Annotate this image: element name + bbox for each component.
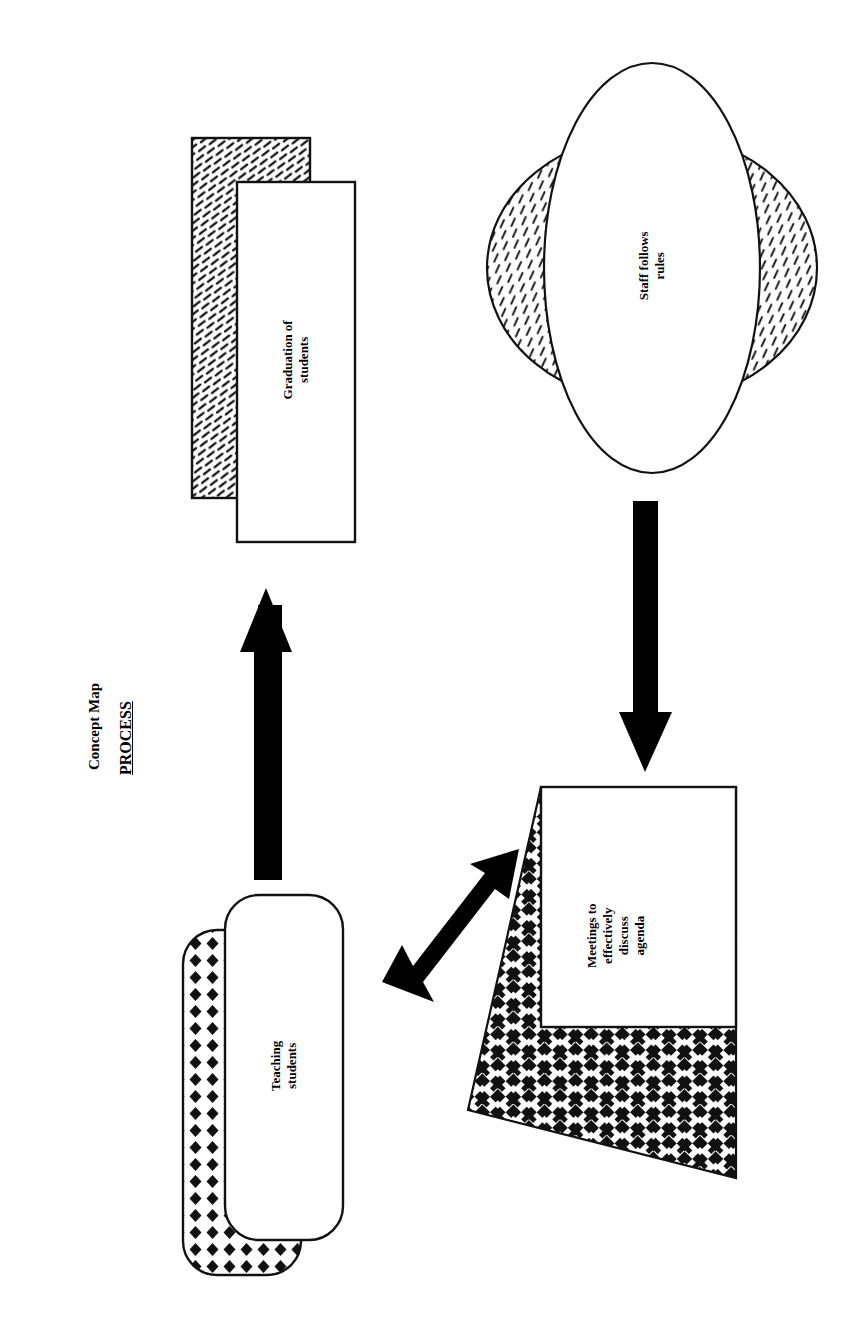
node-label-graduation: Graduation of students	[280, 285, 312, 435]
arrow-up-glyph	[240, 588, 292, 880]
concept-map-canvas: Concept Map PROCESS Graduation of studen…	[0, 0, 845, 1323]
node-graduation-of-students[interactable]	[192, 138, 355, 542]
arrow-down-glyph	[619, 501, 672, 772]
node-label-meetings: Meetings to effectively discuss agenda	[584, 851, 647, 1021]
connector-teaching-to-graduation[interactable]	[240, 588, 292, 880]
connector-staff-to-meetings[interactable]	[619, 501, 672, 772]
node-label-staff-rules: Staff follows rules	[636, 186, 668, 346]
page-title: Concept Map	[86, 683, 103, 770]
node-label-teaching: Teaching students	[268, 991, 300, 1141]
node-teaching-students[interactable]	[183, 895, 343, 1275]
page-subtitle: PROCESS	[117, 701, 135, 775]
page-header: Concept Map	[86, 683, 103, 770]
page-subheader: PROCESS	[117, 701, 135, 775]
diagram-svg	[0, 0, 845, 1323]
